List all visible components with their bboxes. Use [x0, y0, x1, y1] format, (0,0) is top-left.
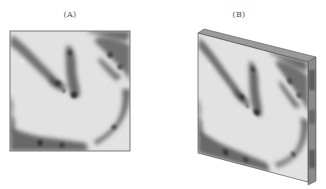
panel-b-slab	[198, 29, 316, 185]
figure-canvas	[0, 0, 326, 189]
panel-a-image	[10, 31, 130, 151]
